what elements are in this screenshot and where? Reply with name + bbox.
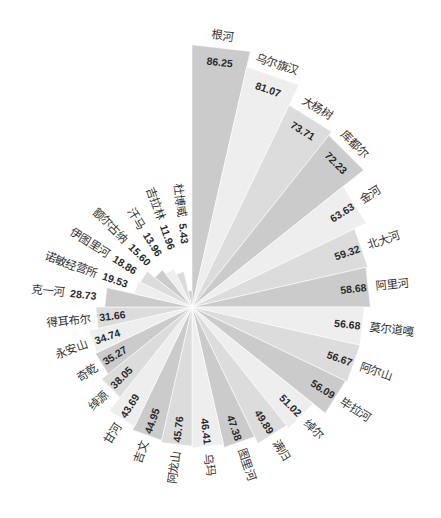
category-label: 毕拉河 [338, 395, 374, 425]
category-label: 阿龙山 [165, 450, 183, 484]
rose-chart: 86.25根河81.07乌尔旗汉73.71大杨树72.23库都尔63.63金河5… [0, 0, 441, 518]
category-label: 图里河 [235, 446, 259, 483]
category-label: 得耳布尔 [46, 311, 91, 330]
value-label: 19.53 [101, 270, 130, 290]
category-label: 金河 [357, 183, 384, 207]
value-label: 5.43 [177, 223, 191, 245]
category-label: 诺敏经营所 [43, 249, 100, 281]
category-label: 汗马 [125, 205, 149, 231]
category-label: 吉文 [131, 438, 152, 464]
category-label: 绰源 [86, 387, 112, 413]
category-label: 杜博威 [171, 183, 189, 218]
category-label: 绰尔 [301, 416, 326, 441]
category-label: 甘河 [101, 420, 125, 447]
rose-chart-canvas: 86.25根河81.07乌尔旗汉73.71大杨树72.23库都尔63.63金河5… [0, 0, 441, 518]
category-label: 莫尔道嘎 [368, 320, 414, 339]
value-label: 28.73 [70, 287, 98, 302]
category-label: 克一河 [30, 282, 65, 300]
category-label: 奇乾 [74, 361, 101, 385]
category-label: 永安山 [53, 337, 89, 361]
category-label: 根河 [211, 27, 235, 43]
category-label: 满归 [270, 437, 294, 463]
category-label: 阿里河 [374, 276, 409, 294]
category-label: 吉拉林 [144, 185, 168, 222]
category-label: 乌玛 [202, 452, 218, 475]
category-label: 阿尔山 [358, 359, 394, 383]
category-label: 北大河 [366, 228, 403, 252]
